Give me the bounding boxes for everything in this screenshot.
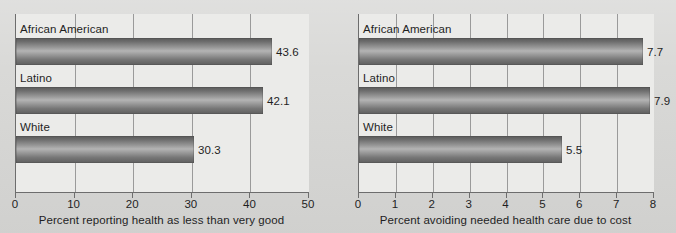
bar-value-right-2: 5.5 [566,144,582,156]
bar-left-1 [16,87,263,114]
figure-canvas: African American 43.6 Latino 42.1 White … [0,0,676,233]
xtick-label-left-40: 40 [243,198,256,210]
xtick-label-right-5: 5 [539,198,545,210]
bar-right-0 [359,38,643,65]
bar-right-1 [359,87,650,114]
x-axis-title-right: Percent avoiding needed health care due … [358,214,653,226]
bar-slot-left-1: 42.1 [16,87,309,114]
category-label-right-1: Latino [363,72,395,84]
bar-value-left-1: 42.1 [267,95,290,107]
xtick-label-right-8: 8 [650,198,656,210]
category-label-left-0: African American [20,23,109,35]
category-label-left-2: White [20,121,50,133]
bar-value-left-0: 43.6 [276,46,299,58]
x-axis-title-left: Percent reporting health as less than ve… [15,214,308,226]
category-label-right-0: African American [363,23,452,35]
category-label-left-1: Latino [20,72,52,84]
xtick-label-left-50: 50 [302,198,315,210]
category-label-right-2: White [363,121,393,133]
xtick-label-right-6: 6 [576,198,582,210]
xtick-label-right-0: 0 [355,198,361,210]
bar-value-right-1: 7.9 [654,95,670,107]
plot-area-left: African American 43.6 Latino 42.1 White … [15,14,309,193]
xtick-label-right-7: 7 [613,198,619,210]
bar-slot-right-1: 7.9 [359,87,654,114]
bar-value-right-0: 7.7 [647,46,663,58]
bar-slot-right-2: 5.5 [359,136,654,163]
bar-left-2 [16,136,194,163]
bar-value-left-2: 30.3 [198,144,221,156]
xtick-label-left-30: 30 [184,198,197,210]
bar-slot-left-2: 30.3 [16,136,309,163]
chart-panel-left: African American 43.6 Latino 42.1 White … [0,0,338,233]
xtick-label-right-4: 4 [502,198,508,210]
xtick-label-right-2: 2 [429,198,435,210]
xtick-label-right-1: 1 [392,198,398,210]
bar-slot-left-0: 43.6 [16,38,309,65]
xtick-label-left-10: 10 [67,198,80,210]
xtick-label-right-3: 3 [465,198,471,210]
xtick-label-left-20: 20 [126,198,139,210]
bar-slot-right-0: 7.7 [359,38,654,65]
chart-panel-right: African American 7.7 Latino 7.9 White 5.… [338,0,676,233]
plot-area-right: African American 7.7 Latino 7.9 White 5.… [358,14,654,193]
xtick-label-left-0: 0 [12,198,18,210]
bar-left-0 [16,38,272,65]
bar-right-2 [359,136,562,163]
